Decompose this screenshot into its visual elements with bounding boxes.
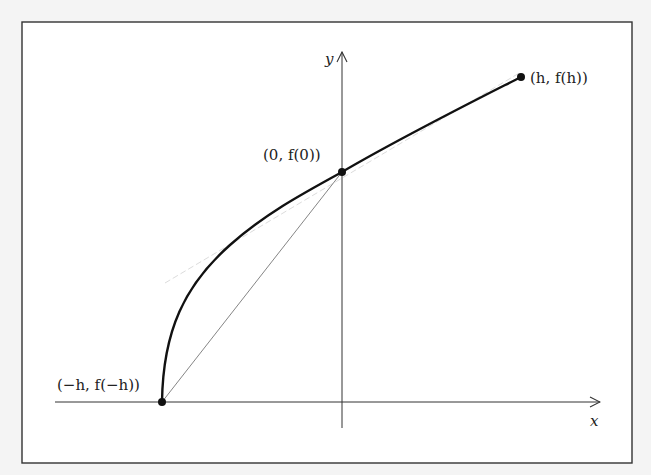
point-left <box>158 398 166 406</box>
point-label-origin: (0, f(0)) <box>263 146 321 164</box>
y-axis-label: y <box>324 50 334 68</box>
point-origin <box>338 168 346 176</box>
x-axis-label: x <box>590 412 599 430</box>
function-diagram: y x (h, f(h)) (0, f(0)) (−h, f(−h)) <box>0 0 651 475</box>
point-label-right: (h, f(h)) <box>530 69 588 87</box>
figure-frame <box>22 22 632 463</box>
point-label-left: (−h, f(−h)) <box>57 376 140 394</box>
point-right <box>517 73 525 81</box>
